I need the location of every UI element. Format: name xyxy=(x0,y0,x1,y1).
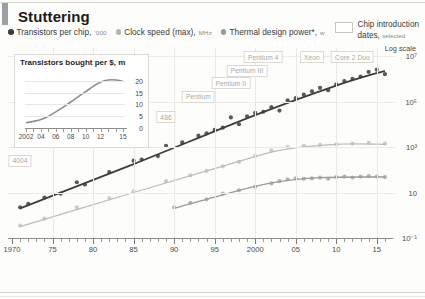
inset-x-tick xyxy=(33,129,34,132)
x-axis-tick xyxy=(304,239,305,242)
x-axis-tick xyxy=(85,239,86,242)
x-axis-tick xyxy=(190,239,191,242)
x-axis-label: 75 xyxy=(48,245,56,254)
x-axis-tick xyxy=(150,239,151,242)
x-axis-tick xyxy=(280,239,281,242)
x-axis-tick xyxy=(182,239,183,242)
chip-box-icon xyxy=(335,22,353,33)
inset-x-tick xyxy=(108,129,109,132)
x-axis-tick xyxy=(361,239,362,242)
data-point xyxy=(318,86,322,90)
gridline-v xyxy=(296,48,297,238)
x-axis-tick xyxy=(369,239,370,242)
x-axis-tick xyxy=(223,239,224,242)
x-axis-tick xyxy=(255,239,256,244)
x-axis-tick xyxy=(247,239,248,242)
data-point xyxy=(229,115,233,119)
chip-annotation-box: Pentium 4 xyxy=(244,51,283,63)
legend-label: Thermal design power*, xyxy=(229,27,317,37)
inset-x-tick xyxy=(123,129,124,132)
x-axis-tick xyxy=(158,239,159,242)
inset-x-tick xyxy=(71,129,72,132)
x-axis-tick xyxy=(215,239,216,244)
x-axis-tick xyxy=(61,239,62,242)
y-axis-label: 10⁷ xyxy=(406,52,417,61)
y-axis-label: 10³ xyxy=(406,143,417,152)
inset-chart: Transistors bought per $, m 051015202002… xyxy=(14,54,149,148)
inset-x-label: 15 xyxy=(119,133,126,140)
inset-x-tick xyxy=(93,129,94,132)
x-axis-tick xyxy=(296,239,297,244)
data-point xyxy=(367,70,371,74)
legend-unit: '000 xyxy=(94,29,106,36)
x-axis-tick xyxy=(328,239,329,242)
inset-x-tick xyxy=(26,129,27,132)
inset-x-tick xyxy=(86,129,87,132)
x-axis-tick xyxy=(93,239,94,244)
inset-plot-area: 051015202002040608101215 xyxy=(19,72,143,143)
x-axis-tick xyxy=(44,239,45,242)
x-axis-tick xyxy=(198,239,199,242)
page-title: Stuttering xyxy=(18,8,90,25)
x-axis-tick xyxy=(134,239,135,244)
x-axis-tick xyxy=(101,239,102,242)
y-axis-label: 10⁻¹ xyxy=(402,234,417,243)
chip-annotation-box: Xeon xyxy=(300,51,324,63)
legend-label: Clock speed (max), xyxy=(124,27,195,37)
x-axis-tick xyxy=(69,239,70,242)
chip-annotation-box: Core 2 Duo xyxy=(331,51,374,63)
x-axis-label: 2000 xyxy=(247,245,264,254)
x-axis-tick xyxy=(207,239,208,242)
x-axis-label: 85 xyxy=(129,245,137,254)
x-axis-tick xyxy=(271,239,272,242)
chip-key-line2: dates, xyxy=(358,31,380,40)
legend-unit: MHz xyxy=(199,29,212,36)
x-axis-label: 90 xyxy=(170,245,178,254)
x-axis-tick xyxy=(231,239,232,242)
chip-annotation-box: Pentium III xyxy=(227,65,268,77)
x-axis-tick xyxy=(174,239,175,244)
inset-x-label: 04 xyxy=(37,133,44,140)
inset-y-label: 5 xyxy=(139,113,143,120)
chip-annotation-box: Pentium II xyxy=(212,77,251,89)
inset-y-label: 15 xyxy=(135,89,143,96)
top-divider xyxy=(0,2,425,3)
x-axis-tick xyxy=(239,239,240,242)
inset-x-tick xyxy=(101,129,102,132)
chip-key-line1: Chip introduction xyxy=(358,20,419,29)
gridline-v xyxy=(174,48,175,238)
trend-line xyxy=(20,144,385,227)
x-axis-tick xyxy=(352,239,353,242)
x-axis-tick xyxy=(28,239,29,242)
inset-x-tick xyxy=(41,129,42,132)
inset-y-label: 0 xyxy=(139,125,143,132)
inset-y-label: 10 xyxy=(135,101,143,108)
legend-item-1: Clock speed (max),MHz xyxy=(116,27,212,37)
inset-x-tick xyxy=(116,129,117,132)
x-axis-tick xyxy=(53,239,54,244)
data-point xyxy=(383,141,387,145)
x-axis-tick xyxy=(377,239,378,244)
x-axis-tick xyxy=(117,239,118,242)
x-axis-label: 15 xyxy=(373,245,381,254)
inset-y-label: 20 xyxy=(135,77,143,84)
chip-annotation-box: 486 xyxy=(156,111,175,123)
inset-x-tick xyxy=(78,129,79,132)
inset-x-label: 10 xyxy=(82,133,89,140)
inset-x-tick xyxy=(48,129,49,132)
legend-label: Transistors per chip, xyxy=(17,27,92,37)
inset-x-label: 2002 xyxy=(19,133,34,140)
x-axis-tick xyxy=(312,239,313,242)
inset-gridline xyxy=(25,116,125,117)
chip-annotation-box: Pentium xyxy=(182,91,215,103)
x-axis-tick xyxy=(77,239,78,242)
chip-annotation-box: 4004 xyxy=(9,155,32,167)
inset-gridline xyxy=(25,81,125,82)
x-axis-tick xyxy=(125,239,126,242)
chip-key-line2-sub: selected xyxy=(382,32,405,39)
x-axis-label: 05 xyxy=(291,245,299,254)
gridline-v xyxy=(377,48,378,238)
x-axis-tick xyxy=(20,239,21,242)
legend-item-0: Transistors per chip,'000 xyxy=(8,27,107,37)
data-point xyxy=(75,180,79,184)
